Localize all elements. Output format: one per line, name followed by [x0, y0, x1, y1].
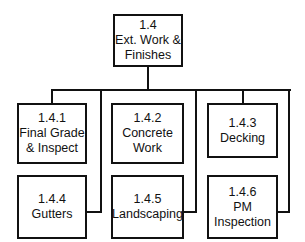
connector-1-4-1 — [51, 89, 53, 104]
wbs-node-1-4-2: 1.4.2 Concrete Work — [111, 103, 184, 164]
connector-1-4-3 — [242, 89, 244, 104]
node-label-line: Ext. Work & — [115, 33, 181, 48]
node-id: 1.4.4 — [38, 192, 66, 207]
node-id: 1.4.5 — [134, 192, 162, 207]
wbs-node-1-4-3: 1.4.3 Decking — [207, 103, 278, 158]
node-label-line: Work — [133, 141, 162, 156]
wbs-node-1-4-1: 1.4.1 Final Grade & Inspect — [17, 103, 87, 164]
spine-right-connector — [288, 89, 290, 213]
node-label-line: PM — [233, 200, 252, 215]
node-label-line: Final Grade — [19, 126, 84, 141]
spine-left-connector — [100, 89, 102, 213]
node-id: 1.4 — [139, 18, 156, 33]
node-id: 1.4.1 — [38, 111, 66, 126]
spine-middle-connector — [195, 89, 197, 213]
wbs-node-1-4: 1.4 Ext. Work & Finishes — [113, 14, 183, 67]
connector-1-4-5 — [182, 211, 197, 213]
node-id: 1.4.6 — [229, 185, 257, 200]
wbs-node-1-4-4: 1.4.4 Gutters — [17, 175, 87, 239]
node-label-line: & Inspect — [26, 141, 78, 156]
horizontal-bus-connector — [51, 89, 291, 91]
node-label-line: Finishes — [125, 48, 172, 63]
node-id: 1.4.3 — [229, 116, 257, 131]
connector-1-4-6 — [276, 211, 290, 213]
node-label-line: Inspection — [214, 215, 271, 230]
node-label-line: Decking — [220, 131, 265, 146]
node-id: 1.4.2 — [134, 111, 162, 126]
root-stem-connector — [147, 66, 149, 91]
node-label-line: Concrete — [122, 126, 173, 141]
node-label-line: Landscaping — [112, 207, 183, 222]
connector-1-4-4 — [86, 211, 102, 213]
wbs-node-1-4-6: 1.4.6 PM Inspection — [207, 175, 278, 239]
node-label-line: Gutters — [32, 207, 73, 222]
wbs-node-1-4-5: 1.4.5 Landscaping — [111, 175, 184, 239]
